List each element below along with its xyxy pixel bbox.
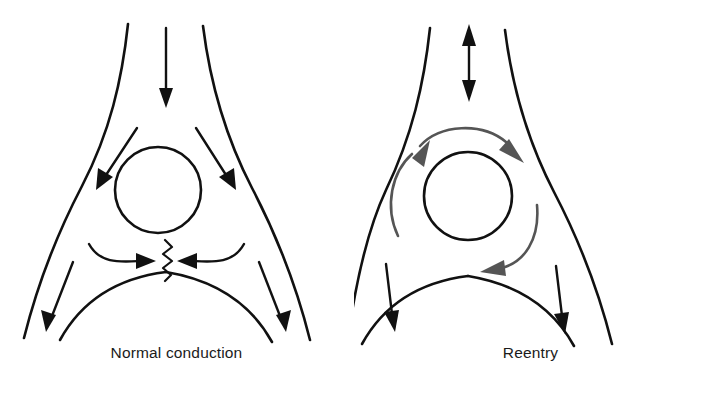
- right-converging-arrowhead: [177, 253, 197, 269]
- panel-normal-conduction: Normal conduction: [0, 0, 353, 396]
- lower-right-exit-arrowhead: [554, 312, 569, 334]
- bidirectional-input-up-arrowhead: [462, 24, 476, 46]
- panel-normal-caption: Normal conduction: [0, 344, 353, 362]
- right-diagonal-arrow: [196, 128, 226, 175]
- lower-left-exit-arrowhead: [384, 310, 399, 332]
- right-circuit-arrowhead: [480, 260, 506, 276]
- av-node-circle: [424, 152, 512, 240]
- right-diagonal-arrowhead: [219, 168, 236, 190]
- left-converging-arc-arrow: [89, 244, 140, 262]
- left-circuit-arc-arrow: [391, 154, 412, 236]
- lower-left-limb-outline: [362, 276, 468, 344]
- left-wall-outline: [24, 24, 128, 338]
- panel-reentry-caption: Reentry: [354, 344, 707, 362]
- lower-right-exit-arrow: [556, 266, 562, 316]
- left-wall-outline: [354, 28, 430, 312]
- figure-root: Normal conduction: [0, 0, 707, 396]
- lower-right-exit-arrow: [259, 262, 280, 316]
- lower-left-limb-outline: [60, 272, 166, 340]
- panel-reentry: Reentry: [354, 0, 707, 396]
- upper-circuit-arrowhead: [499, 139, 524, 163]
- av-node-circle: [115, 147, 201, 233]
- bidirectional-input-down-arrowhead: [462, 80, 476, 102]
- right-converging-arc-arrow: [193, 244, 244, 262]
- left-converging-arrowhead: [136, 253, 156, 269]
- lower-left-exit-arrow: [52, 262, 73, 316]
- lower-left-exit-arrow: [386, 264, 392, 314]
- lower-right-limb-outline: [166, 272, 272, 342]
- right-wall-outline: [203, 26, 310, 340]
- upper-circuit-arc-arrow: [420, 128, 506, 146]
- collision-zigzag-symbol: [163, 240, 172, 281]
- left-diagonal-arrowhead: [96, 168, 113, 190]
- antegrade-input-arrowhead: [159, 88, 173, 108]
